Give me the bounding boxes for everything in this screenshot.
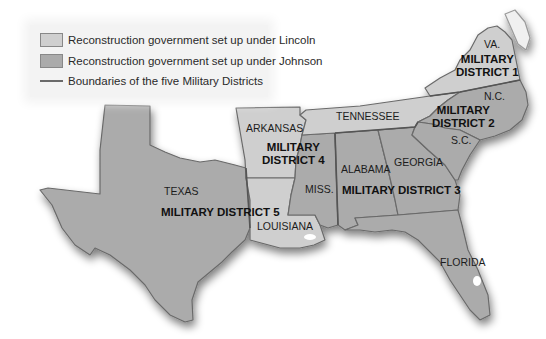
district-4-line-2: DISTRICT 4 [262, 154, 325, 167]
label-virginia: VA. [484, 38, 500, 50]
lake-pontchartrain [304, 234, 316, 240]
label-military-district-4: MILITARY DISTRICT 4 [262, 141, 325, 167]
legend-item-lincoln: Reconstruction government set up under L… [40, 31, 315, 49]
label-military-district-1: MILITARY DISTRICT 1 [456, 53, 519, 79]
legend-item-johnson: Reconstruction government set up under J… [40, 52, 322, 70]
label-mississippi: MISS. [305, 183, 334, 195]
label-alabama: ALABAMA [341, 163, 391, 175]
label-north-carolina: N.C. [484, 90, 505, 102]
label-military-district-2: MILITARY DISTRICT 2 [432, 104, 495, 130]
legend-label-johnson: Reconstruction government set up under J… [68, 55, 322, 67]
district-4-line-1: MILITARY [262, 141, 325, 154]
map-legend: Reconstruction government set up under L… [30, 25, 268, 97]
district-2-line-2: DISTRICT 2 [432, 117, 495, 130]
legend-label-lincoln: Reconstruction government set up under L… [68, 34, 315, 46]
district-1-line-1: MILITARY [456, 53, 519, 66]
label-louisiana: LOUISIANA [257, 220, 313, 232]
label-florida: FLORIDA [440, 256, 486, 268]
label-military-district-5: MILITARY DISTRICT 5 [161, 206, 280, 219]
district-2-line-1: MILITARY [432, 104, 495, 117]
label-tennessee: TENNESSEE [336, 110, 400, 122]
label-texas: TEXAS [164, 185, 198, 197]
johnson-swatch-icon [40, 54, 63, 68]
lincoln-swatch-icon [40, 33, 63, 47]
legend-label-boundaries: Boundaries of the five Military District… [68, 75, 263, 87]
label-military-district-3: MILITARY DISTRICT 3 [342, 184, 461, 197]
district-1-line-2: DISTRICT 1 [456, 66, 519, 79]
legend-item-boundaries: Boundaries of the five Military District… [40, 72, 263, 90]
label-arkansas: ARKANSAS [246, 122, 303, 134]
boundary-line-icon [40, 80, 63, 82]
label-georgia: GEORGIA [394, 156, 443, 168]
lake-okeechobee [473, 276, 481, 286]
label-south-carolina: S.C. [451, 134, 471, 146]
